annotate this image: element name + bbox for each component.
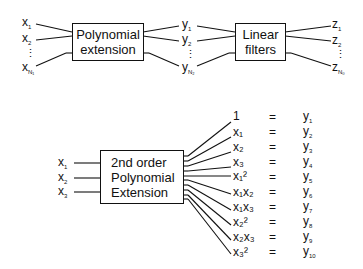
mid-ellipsis: ⋮ [185,48,196,60]
equals-sign: = [269,201,276,213]
block-label-line3: Extension [111,185,168,200]
input-ellipsis: ⋮ [25,47,36,59]
equals-sign: = [269,111,276,123]
term-row: x₃ [233,156,244,168]
mid-yN2: yN₂ [182,61,195,78]
equals-sign: = [269,141,276,153]
equals-sign: = [269,126,276,138]
block-label-line2: extension [80,42,136,57]
block-label-line2: Polynomial [111,170,175,185]
term-row: x₁ [233,126,243,138]
equals-sign: = [269,156,276,168]
term-row: x₂ [233,141,244,153]
term-row: x₂² [233,216,248,228]
block-label-line1: 2nd order [111,155,167,170]
equals-sign: = [269,231,276,243]
term-row: x₂x₃ [233,231,255,243]
block-label-line1: Polynomial [76,27,140,42]
term-row: x₁x₃ [233,201,254,213]
equals-sign: = [269,186,276,198]
linear-filters-block: Linear filters [235,23,286,61]
term-row: x₁² [233,170,247,182]
term-row: 1 [233,110,240,122]
block-label-line2: filters [245,42,276,57]
output-y: y10 [303,245,316,262]
term-row: x₁x₂ [233,186,254,198]
output-ellipsis: ⋮ [335,48,346,60]
block-label-line1: Linear [242,27,278,42]
polynomial-extension-block: Polynomial extension [72,23,144,61]
equals-sign: = [269,246,276,258]
output-zNo: zN₀ [332,61,345,78]
term-row: x₃² [233,246,248,258]
bottom-input-x3: x3 [58,185,67,202]
input-xN1: xN₁ [22,61,34,78]
second-order-polynomial-extension-block: 2nd order Polynomial Extension [100,150,184,204]
equals-sign: = [269,171,276,183]
equals-sign: = [269,216,276,228]
